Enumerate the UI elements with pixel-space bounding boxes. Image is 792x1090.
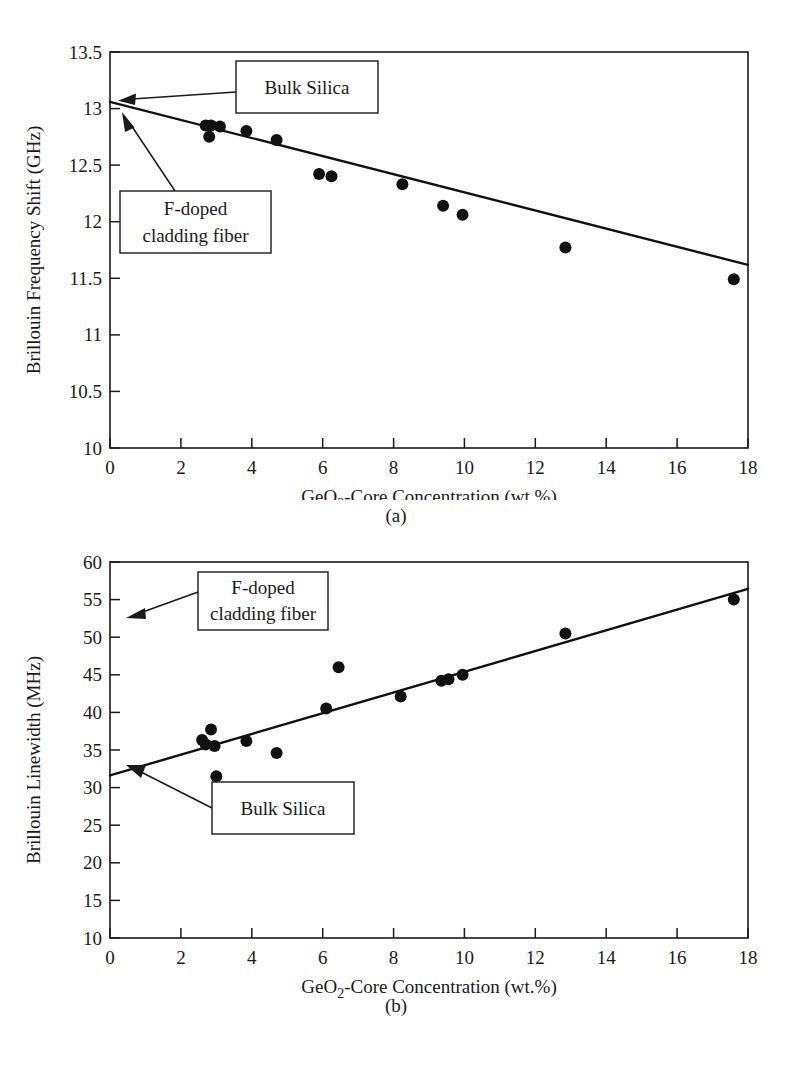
chart-b-ytick-0: 10 [83, 928, 102, 949]
chart-a-xtick-6: 12 [526, 457, 545, 478]
chart-b-ytick-9: 55 [83, 589, 102, 610]
chart-b-xtick-0: 0 [105, 947, 115, 968]
chart-a-ytick-7: 13.5 [69, 42, 102, 63]
chart-a-x-axis: 0 2 4 6 8 10 12 14 16 18 [105, 438, 757, 478]
chart-panel-a: Brillouin Frequency Shift (GHz) 10 10.5 … [0, 0, 792, 545]
data-point [203, 131, 215, 143]
chart-b-y-axis: 10 15 20 25 30 35 40 45 50 55 [83, 552, 120, 949]
data-point [214, 121, 226, 133]
chart-b-xtick-8: 16 [668, 947, 687, 968]
chart-b-xtick-3: 6 [318, 947, 328, 968]
chart-b-ytick-3: 25 [83, 815, 102, 836]
chart-a-xtick-3: 6 [318, 457, 328, 478]
data-point [396, 178, 408, 190]
chart-b-ylabel: Brillouin Linewidth (MHz) [23, 656, 45, 864]
chart-a-xlabel-pre: GeO [301, 486, 337, 500]
chart-a-ytick-4: 12 [83, 211, 102, 232]
chart-b-ytick-2: 20 [83, 852, 102, 873]
figure-container: Brillouin Frequency Shift (GHz) 10 10.5 … [0, 0, 792, 1090]
data-point [210, 770, 222, 782]
data-point [326, 170, 338, 182]
chart-b-xtick-7: 14 [597, 947, 617, 968]
chart-b-xtick-9: 18 [739, 947, 758, 968]
chart-b-x-axis: 0 2 4 6 8 10 12 14 16 18 [105, 928, 757, 968]
chart-a-ytick-1: 10.5 [69, 381, 102, 402]
data-point [728, 594, 740, 606]
chart-a-xtick-8: 16 [668, 457, 687, 478]
chart-a-y-axis: 10 10.5 11 11.5 12 12.5 13 13.5 [69, 42, 120, 459]
chart-a-xtick-4: 8 [389, 457, 399, 478]
arrowhead-icon [118, 94, 136, 106]
chart-a-xlabel-sub: 2 [337, 496, 344, 500]
chart-a-xtick-7: 14 [597, 457, 617, 478]
data-point [333, 661, 345, 673]
chart-a-annotation-bulk-silica: Bulk Silica [118, 61, 378, 113]
data-point [320, 703, 332, 715]
data-point [728, 273, 740, 285]
chart-a-ytick-5: 12.5 [69, 155, 102, 176]
chart-b-ytick-7: 45 [83, 664, 102, 685]
chart-a-annotation-label-2b: cladding fiber [142, 225, 249, 246]
chart-a-xlabel: GeO2-Core Concentration (wt.%) [301, 486, 557, 500]
chart-a-ytick-2: 11 [84, 324, 102, 345]
data-point [559, 242, 571, 254]
chart-a-ytick-0: 10 [83, 438, 102, 459]
data-point [395, 691, 407, 703]
chart-b-ytick-5: 35 [83, 740, 102, 761]
chart-b-xtick-1: 2 [176, 947, 186, 968]
chart-b-ytick-1: 15 [83, 890, 102, 911]
chart-b-annotation-bulk-silica: Bulk Silica [126, 765, 354, 834]
chart-b-annotation-label-2: Bulk Silica [241, 798, 327, 819]
data-point [457, 669, 469, 681]
chart-b-xtick-4: 8 [389, 947, 399, 968]
chart-a-ylabel: Brillouin Frequency Shift (GHz) [23, 126, 45, 375]
arrowhead-icon [126, 608, 146, 619]
chart-a-xtick-1: 2 [176, 457, 186, 478]
chart-a-svg: Brillouin Frequency Shift (GHz) 10 10.5 … [0, 0, 792, 500]
chart-b-ytick-8: 50 [83, 627, 102, 648]
chart-b-ytick-6: 40 [83, 702, 102, 723]
chart-b-ytick-4: 30 [83, 777, 102, 798]
data-point [437, 200, 449, 212]
chart-b-xtick-2: 4 [247, 947, 257, 968]
data-point [205, 724, 217, 736]
arrowhead-icon [126, 765, 146, 778]
data-point [559, 627, 571, 639]
arrowhead-icon [122, 112, 135, 132]
chart-b-annotation-f-doped: F-doped cladding fiber [126, 572, 328, 630]
chart-a-xtick-9: 18 [739, 457, 758, 478]
data-point [271, 747, 283, 759]
data-point [313, 168, 325, 180]
chart-a-xtick-5: 10 [455, 457, 474, 478]
chart-b-svg: Brillouin Linewidth (MHz) 10 15 20 25 30… [0, 510, 792, 1030]
chart-panel-b: Brillouin Linewidth (MHz) 10 15 20 25 30… [0, 510, 792, 1090]
data-point [240, 735, 252, 747]
chart-b-xtick-5: 10 [455, 947, 474, 968]
chart-a-xtick-0: 0 [105, 457, 115, 478]
chart-a-xtick-2: 4 [247, 457, 257, 478]
chart-a-data-points [200, 119, 740, 285]
chart-b-annotation-label-1b: cladding fiber [210, 603, 317, 624]
panel-b-caption: (b) [0, 995, 792, 1017]
chart-a-ytick-6: 13 [83, 98, 102, 119]
chart-b-xtick-6: 12 [526, 947, 545, 968]
chart-a-annotation-label-2a: F-doped [164, 198, 228, 219]
data-point [240, 125, 252, 137]
chart-a-annotation-label-1: Bulk Silica [265, 77, 351, 98]
chart-a-ytick-3: 11.5 [69, 268, 102, 289]
chart-b-ytick-10: 60 [83, 552, 102, 573]
data-point [443, 673, 455, 685]
chart-b-annotation-label-1a: F-doped [231, 577, 295, 598]
chart-a-xlabel-post: -Core Concentration (wt.%) [344, 486, 557, 500]
chart-b-xlabel-pre: GeO [301, 976, 337, 997]
data-point [209, 740, 221, 752]
data-point [457, 209, 469, 221]
data-point [271, 134, 283, 146]
